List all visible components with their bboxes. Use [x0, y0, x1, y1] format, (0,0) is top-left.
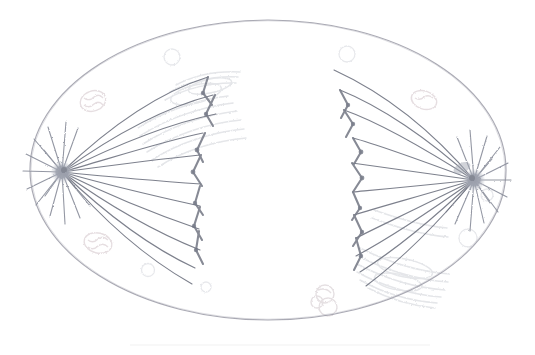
vesicle-cluster: [311, 285, 337, 316]
left-spindle-fibers: [62, 77, 216, 284]
figure-canvas: Anaphase of mitosis — hand-drawn pencil …: [0, 0, 535, 355]
anaphase-diagram: [0, 0, 535, 355]
left-centrosome: [51, 161, 73, 183]
mitochondrion-upper-left: [77, 87, 108, 115]
left-chromosome-group: [191, 77, 215, 264]
right-spindle-fibers: [334, 70, 474, 286]
organelle-layer: [77, 46, 493, 316]
cell-membrane: [30, 20, 506, 320]
mitochondrion-lower-left: [82, 230, 114, 256]
mitochondrion-upper-right: [409, 87, 439, 112]
